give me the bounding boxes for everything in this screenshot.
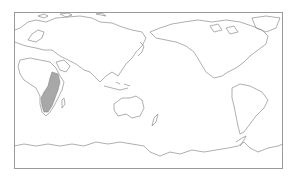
madagascar-coastline (62, 98, 65, 108)
north-america-coastline (150, 20, 268, 78)
australia-coastline (114, 96, 144, 118)
south-america-coastline (232, 84, 268, 134)
indonesia-coastline (104, 82, 130, 90)
antarctic-peninsula-coastline (236, 136, 246, 146)
new-zealand-coastline (152, 114, 158, 126)
scandinavia-coastline (28, 30, 44, 42)
arctic-islands-coastline (38, 13, 106, 18)
eurasia-coastline (15, 16, 146, 82)
distribution-range-africa (41, 72, 60, 112)
arabia-coastline (56, 60, 70, 72)
antarctica-coastline (14, 142, 283, 156)
arctic-archipelago-coastline (210, 24, 238, 34)
greenland-coastline (252, 16, 280, 32)
world-map (0, 0, 297, 177)
